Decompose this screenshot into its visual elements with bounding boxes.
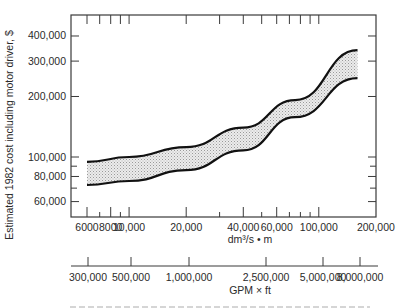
x-axis-title: dm³/s • m: [228, 233, 273, 245]
secondary-x-tick-label: 300,000: [69, 271, 107, 283]
y-tick-label: 400,000: [28, 29, 66, 41]
cost-chart: 6000800010,00020,00040,00060,000100,0002…: [0, 0, 409, 308]
x-tick-label: 200,000: [357, 221, 395, 233]
secondary-x-tick-label: 1,000,000: [166, 271, 213, 283]
x-axis-tick-labels: 6000800010,00020,00040,00060,000100,0002…: [75, 221, 395, 233]
cost-range-band: [87, 50, 358, 185]
plot-frame: [71, 15, 376, 217]
y-tick-label: 200,000: [28, 90, 66, 102]
band-area: [87, 50, 358, 185]
figure-caption-clipped: [0, 302, 409, 308]
y-axis-tick-labels: 60,00080,000100,000200,000300,000400,000: [28, 29, 66, 207]
x-tick-label: 60,000: [261, 221, 293, 233]
secondary-x-axis-ticks: 300,000500,0001,000,0002,500,0005,000,00…: [69, 257, 383, 283]
x-tick-label: 20,000: [170, 221, 202, 233]
secondary-x-tick-label: 8,000,000: [337, 271, 384, 283]
x-tick-label: 10,000: [113, 221, 145, 233]
secondary-x-axis-title: GPM × ft: [229, 284, 271, 296]
y-tick-label: 100,000: [28, 151, 66, 163]
x-tick-label: 6000: [75, 221, 99, 233]
x-tick-label: 40,000: [227, 221, 259, 233]
secondary-x-tick-label: 2,500,000: [243, 271, 290, 283]
secondary-x-tick-label: 500,000: [112, 271, 150, 283]
y-tick-label: 60,000: [34, 195, 66, 207]
y-tick-label: 300,000: [28, 55, 66, 67]
y-tick-label: 80,000: [34, 170, 66, 182]
y-axis-title: Estimated 1982 cost including motor driv…: [3, 30, 15, 240]
x-tick-label: 100,000: [300, 221, 338, 233]
